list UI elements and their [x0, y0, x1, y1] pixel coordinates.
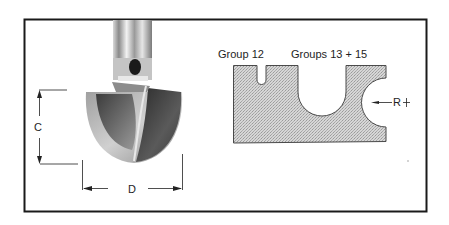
groups-13-15-label: Groups 13 + 15 [291, 49, 367, 60]
group-12-label: Group 12 [218, 49, 264, 60]
router-bit-shank [113, 20, 152, 81]
figure-canvas [0, 0, 449, 225]
print-speck [407, 160, 408, 161]
dimension-c-label: C [34, 122, 42, 133]
dimension-d-label: D [128, 184, 136, 195]
radius-label: R [393, 97, 401, 108]
